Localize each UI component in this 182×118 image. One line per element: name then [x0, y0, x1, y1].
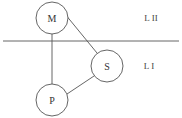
edge-m-s	[65, 14, 97, 53]
node-m-label: M	[48, 13, 57, 24]
level-label-l2: L II	[144, 13, 157, 23]
diagram-canvas: M S P L II L I	[0, 0, 182, 118]
level-label-l1: L I	[144, 61, 154, 71]
node-p-label: P	[49, 95, 55, 106]
node-s: S	[91, 50, 123, 82]
node-p: P	[36, 84, 68, 116]
edge-p-s	[67, 76, 94, 94]
node-m: M	[36, 2, 68, 34]
node-s-label: S	[104, 61, 110, 72]
